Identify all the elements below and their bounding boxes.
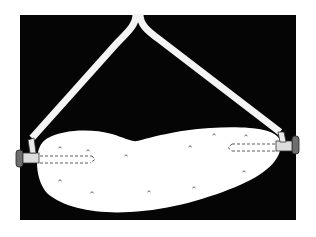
right-electrode-cap (292, 136, 299, 154)
left-electrode-cap (16, 150, 23, 167)
left-electrode-shaft (23, 153, 39, 163)
right-electrode-shaft (276, 141, 292, 151)
pickle-illustration (0, 0, 316, 237)
